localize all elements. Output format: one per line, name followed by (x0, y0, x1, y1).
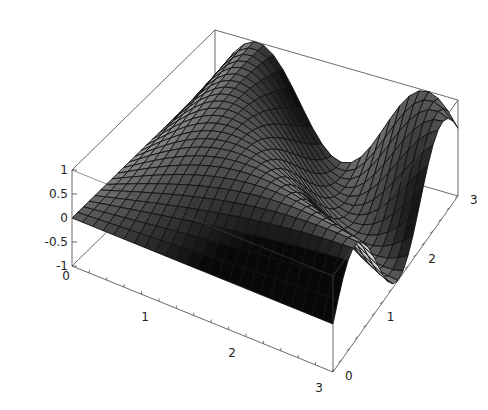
surface-plot: 10.50-0.5-1 0123 0123 (0, 0, 488, 410)
z-tick-label: 0.5 (49, 187, 68, 201)
z-tick-label: -0.5 (45, 235, 68, 249)
x-tick-label: 0 (62, 269, 70, 283)
surface-mesh (72, 42, 458, 324)
y-tick-label: 1 (387, 310, 395, 324)
x-tick-label: 1 (141, 310, 149, 324)
z-tick-label: 1 (60, 163, 68, 177)
x-tick-label: 2 (228, 346, 236, 360)
z-tick-label: 0 (60, 211, 68, 225)
x-tick-label: 3 (315, 381, 323, 395)
y-tick-label: 2 (428, 252, 436, 266)
y-tick-label: 3 (470, 193, 478, 207)
y-tick-label: 0 (345, 369, 353, 383)
